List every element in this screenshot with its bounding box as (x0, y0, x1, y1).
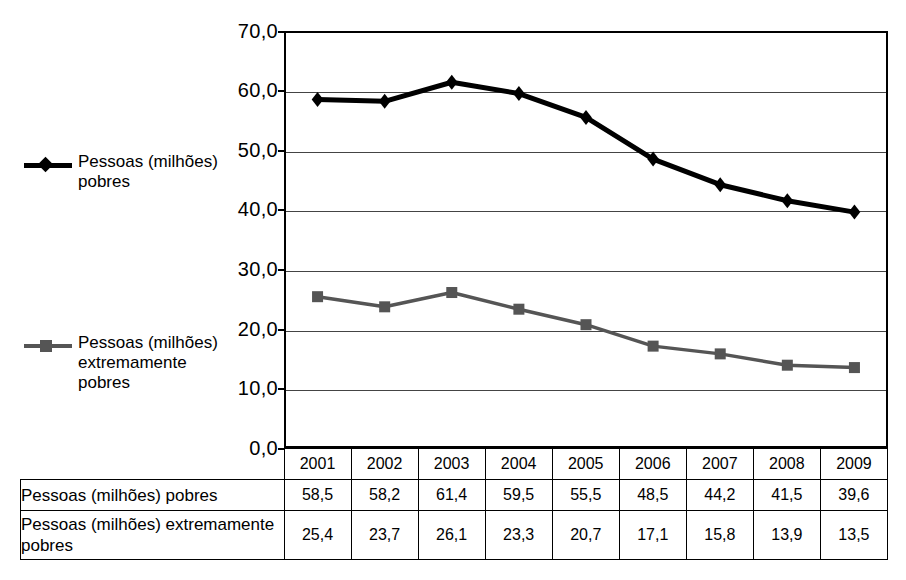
plot-area (284, 31, 888, 448)
table-header-cell: 2001 (284, 449, 351, 480)
table-header-cell: 2003 (418, 449, 485, 480)
table-cell: 58,5 (284, 480, 351, 511)
y-tick-label: 40,0 (214, 199, 278, 219)
table-row: Pessoas (milhões) pobres 58,5 58,2 61,4 … (21, 480, 888, 511)
table-row: Pessoas (milhões) extremamente pobres 25… (21, 511, 888, 560)
table-cell: 59,5 (485, 480, 552, 511)
gridline (286, 331, 886, 332)
table-cell: 23,3 (485, 511, 552, 560)
table-cell: 41,5 (753, 480, 820, 511)
table-cell: 26,1 (418, 511, 485, 560)
gridline (286, 152, 886, 153)
diamond-marker-icon (22, 157, 74, 173)
table-cell: 39,6 (820, 480, 887, 511)
data-table: 2001 2002 2003 2004 2005 2006 2007 2008 … (20, 448, 888, 560)
table-cell: 61,4 (418, 480, 485, 511)
gridline (286, 211, 886, 212)
table-cell: 13,9 (753, 511, 820, 560)
gridline (286, 92, 886, 93)
table-header-cell: 2009 (820, 449, 887, 480)
y-tick-label: 70,0 (214, 21, 278, 41)
table-cell: 44,2 (686, 480, 753, 511)
table-header-cell: 2002 (351, 449, 418, 480)
table-row-label: Pessoas (milhões) extremamente pobres (21, 511, 285, 560)
table-cell: 13,5 (820, 511, 887, 560)
table-cell: 48,5 (619, 480, 686, 511)
y-tick-label: 60,0 (214, 80, 278, 100)
table-header-cell: 2005 (552, 449, 619, 480)
table-cell: 58,2 (351, 480, 418, 511)
table-cell: 17,1 (619, 511, 686, 560)
table-cell: 15,8 (686, 511, 753, 560)
table-header-cell: 2008 (753, 449, 820, 480)
legend-label: Pessoas (milhões) extremamente pobres (78, 333, 228, 393)
legend-label: Pessoas (milhões) pobres (78, 152, 228, 192)
gridline (286, 271, 886, 272)
table-cell: 55,5 (552, 480, 619, 511)
square-marker-icon (22, 338, 74, 354)
table-header-row: 2001 2002 2003 2004 2005 2006 2007 2008 … (21, 449, 888, 480)
y-tick-label: 30,0 (214, 259, 278, 279)
table-header-corner (21, 449, 285, 480)
gridline (286, 390, 886, 391)
table-cell: 23,7 (351, 511, 418, 560)
table-header-cell: 2006 (619, 449, 686, 480)
table-row-label: Pessoas (milhões) pobres (21, 480, 285, 511)
table-cell: 20,7 (552, 511, 619, 560)
table-cell: 25,4 (284, 511, 351, 560)
table-header-cell: 2007 (686, 449, 753, 480)
table-header-cell: 2004 (485, 449, 552, 480)
